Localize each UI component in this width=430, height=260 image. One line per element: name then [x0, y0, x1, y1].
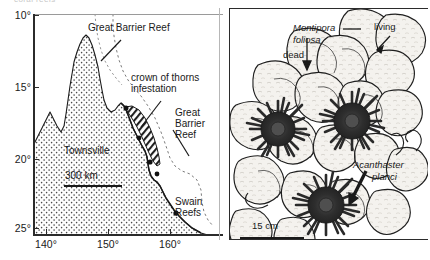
label-gbr-right-line1: Great: [175, 107, 200, 118]
label-swain-line1: Swain: [175, 196, 202, 207]
y-tick: [33, 87, 39, 88]
label-acanthaster-line2: planci: [372, 171, 404, 183]
coral-panel: Montipora foliosa living dead Acanthaste…: [227, 0, 430, 260]
label-gbr-right-line2: Barrier: [175, 118, 205, 129]
label-swain-line2: Reefs: [175, 207, 201, 218]
x-tick: [46, 229, 47, 235]
label-crown-of-thorns-line2: infestation: [131, 83, 177, 94]
map-top-rule: [33, 14, 223, 15]
figure-two-panel: coral reefs: [0, 0, 430, 260]
panel-divider-rule: [219, 8, 220, 240]
map-panel: 10° 15° 20° 25° 140° 150° 160° Great Bar…: [0, 0, 215, 260]
leader-line-gbr-top: [101, 40, 121, 61]
label-crown-of-thorns-line1: crown of thorns: [131, 72, 199, 83]
x-axis-label: 160°: [150, 238, 190, 250]
label-dead: dead: [283, 50, 304, 61]
y-tick: [33, 228, 39, 229]
coral-scale-bar: [240, 237, 304, 239]
coral-scale-bar-label: 15 cm: [252, 221, 278, 232]
leader-line-crown-of-thorns: [141, 101, 161, 127]
y-axis-label: 10°: [3, 9, 31, 21]
map-x-axis: [33, 234, 223, 236]
x-tick: [108, 229, 109, 235]
label-acanthaster-line1: Acanthaster: [353, 159, 404, 170]
label-montipora-line1: Montipora: [293, 22, 335, 33]
site-dot-townsville: [147, 159, 152, 164]
label-great-barrier-reef-right: Great Barrier Reef: [175, 107, 205, 141]
x-axis-label: 150°: [88, 238, 128, 250]
coral-panel-frame: Montipora foliosa living dead Acanthaste…: [229, 8, 428, 240]
site-dot: [137, 136, 142, 141]
label-living: living: [374, 22, 396, 33]
map-scale-bar: [64, 185, 122, 187]
map-y-axis: [33, 14, 35, 236]
label-gbr-right-line3: Reef: [175, 129, 196, 140]
label-great-barrier-reef-top: Great Barrier Reef: [88, 22, 170, 33]
y-tick: [33, 159, 39, 160]
x-axis-label: 140°: [26, 238, 66, 250]
y-tick: [33, 15, 39, 16]
x-tick: [170, 229, 171, 235]
label-acanthaster-planci: Acanthaster planci: [353, 159, 404, 183]
site-dot: [124, 106, 129, 111]
label-montipora-foliosa: Montipora foliosa: [293, 22, 335, 46]
y-axis-label: 15°: [3, 81, 31, 93]
label-swain-reefs: Swain Reefs: [175, 196, 202, 218]
site-dot: [155, 172, 160, 177]
label-montipora-line2: foliosa: [293, 34, 320, 45]
label-crown-of-thorns-infestation: crown of thorns infestation: [131, 72, 199, 94]
y-axis-label: 20°: [3, 153, 31, 165]
y-axis-label: 25°: [3, 222, 31, 234]
map-scale-bar-label: 300 km: [65, 170, 98, 181]
label-townsville: Townsville: [64, 145, 110, 156]
